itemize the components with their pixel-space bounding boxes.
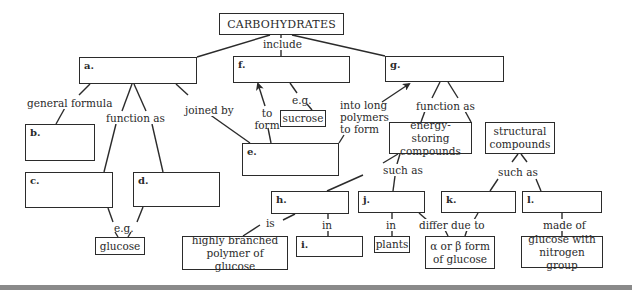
alpha-beta-text: α or β form of glucose	[430, 240, 490, 266]
blank-box-b[interactable]: b.	[25, 124, 95, 161]
link-general-formula: general formula	[27, 97, 112, 109]
blank-box-a[interactable]: a.	[79, 57, 197, 84]
link-eg-glucose: e.g.	[114, 222, 134, 234]
blank-box-d[interactable]: d.	[133, 172, 220, 207]
blank-box-e[interactable]: e.	[242, 143, 339, 176]
page-bottom-rule	[0, 285, 632, 290]
blank-box-c[interactable]: c.	[25, 172, 113, 208]
link-in-h: in	[322, 219, 332, 231]
link-eg-sucrose: e.g.	[292, 94, 312, 106]
blank-box-k[interactable]: k.	[441, 191, 516, 213]
link-function-as-g: function as	[416, 100, 475, 112]
link-to-form: to form	[257, 107, 277, 131]
blank-label-d: d.	[138, 175, 148, 186]
structural-text: structural compounds	[490, 125, 551, 151]
link-such-as-energy: such as	[383, 164, 423, 176]
carbohydrates-title: CARBOHYDRATES	[227, 18, 336, 31]
blank-label-h: h.	[276, 194, 287, 205]
blank-label-k: k.	[446, 194, 456, 205]
blank-label-l: l.	[527, 194, 534, 205]
blank-box-l[interactable]: l.	[522, 191, 602, 213]
structural-box: structural compounds	[485, 122, 555, 154]
blank-label-b: b.	[30, 127, 40, 138]
blank-box-h[interactable]: h.	[271, 191, 349, 214]
concept-map: CARBOHYDRATES a. b. c. d. e. f. g. h. i.…	[0, 0, 632, 297]
blank-label-e: e.	[247, 146, 257, 157]
link-to-form-text: to form	[254, 107, 280, 131]
link-in-j: in	[386, 219, 396, 231]
blank-label-j: j.	[363, 194, 370, 205]
glucose-box: glucose	[95, 237, 145, 255]
link-joined-by: joined by	[185, 104, 234, 116]
highly-branched-box: highly branched polymer of glucose	[182, 236, 288, 270]
blank-label-c: c.	[30, 175, 40, 186]
highly-branched-text: highly branched polymer of glucose	[186, 234, 284, 273]
energy-storing-box: energy-storing compounds	[389, 122, 472, 154]
link-such-as-structural: such as	[498, 166, 538, 178]
sucrose-text: sucrose	[283, 112, 324, 125]
link-into-long-polymers-text: into long polymers to form	[340, 99, 388, 135]
sucrose-box: sucrose	[280, 110, 326, 127]
plants-box: plants	[374, 236, 410, 253]
blank-box-f[interactable]: f.	[233, 56, 350, 83]
link-into-long-polymers: into long polymers to form	[340, 99, 388, 135]
blank-box-j[interactable]: j.	[358, 191, 425, 213]
blank-box-g[interactable]: g.	[385, 56, 504, 82]
glucose-nitrogen-text: glucose with nitrogen group	[524, 233, 600, 272]
blank-label-a: a.	[84, 60, 94, 71]
energy-storing-text: energy-storing compounds	[394, 119, 467, 158]
link-is: is	[266, 217, 275, 229]
link-made-of: made of	[543, 219, 586, 231]
alpha-beta-box: α or β form of glucose	[425, 236, 495, 269]
glucose-text: glucose	[100, 240, 141, 253]
carbohydrates-box: CARBOHYDRATES	[219, 13, 344, 35]
blank-label-f: f.	[238, 59, 245, 70]
link-differ-due-to: differ due to	[419, 219, 485, 231]
link-include: include	[263, 38, 302, 50]
link-function-as-a: function as	[106, 112, 165, 124]
blank-box-i[interactable]: i.	[296, 236, 363, 257]
blank-label-g: g.	[390, 59, 400, 70]
blank-label-i: i.	[301, 239, 308, 250]
plants-text: plants	[376, 238, 409, 251]
glucose-nitrogen-box: glucose with nitrogen group	[521, 236, 603, 268]
